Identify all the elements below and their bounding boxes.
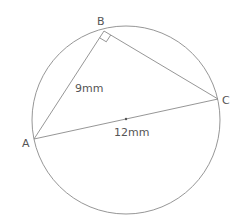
measurement-ab: 9mm [75,82,103,95]
measurement-ac: 12mm [114,126,149,139]
side-bc [104,31,218,99]
vertex-label-b: B [97,15,105,28]
vertex-label-a: A [22,137,30,150]
geometry-diagram: B A C 9mm 12mm [0,0,244,224]
center-point [125,118,127,120]
vertex-label-c: C [222,94,230,107]
